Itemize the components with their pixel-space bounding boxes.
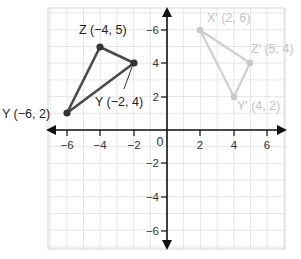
point-z-prime: [247, 60, 254, 67]
x-tick-label: −6: [60, 139, 73, 151]
coordinate-plane: −6 −4 −2 2 4 6 0 −6 4 2 −2 −4 −6 X′ (2, …: [0, 0, 301, 259]
origin-label: 0: [157, 135, 164, 149]
label-z-prime: Z′ (5, 4): [251, 42, 294, 56]
y-tick-label: 4: [153, 57, 160, 69]
point-y: [63, 109, 70, 116]
x-tick-label: −2: [127, 139, 140, 151]
x-tick-label: −4: [93, 139, 107, 151]
label-z: Z (−4, 5): [79, 23, 127, 37]
label-y: Y (−6, 2): [2, 107, 50, 121]
x-tick-label: 4: [231, 139, 238, 151]
point-z: [96, 43, 103, 50]
y-tick-label: −6: [146, 24, 159, 36]
point-x: [130, 59, 137, 66]
y-tick-label: 2: [153, 91, 159, 103]
x-tick-label: 2: [197, 139, 203, 151]
x-tick-label: 6: [264, 139, 270, 151]
y-tick-label: −6: [146, 225, 159, 237]
label-x: Y (−2, 4): [95, 95, 143, 109]
y-tick-label: −4: [146, 191, 160, 203]
label-x-prime: X′ (2, 6): [207, 11, 250, 25]
label-y-prime: Y′ (4, 2): [237, 99, 280, 113]
y-tick-label: −2: [146, 157, 159, 169]
point-x-prime: [197, 27, 204, 34]
